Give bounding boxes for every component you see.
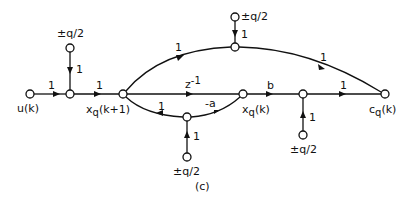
label-c: cq(k): [369, 103, 396, 118]
node-source-1: [66, 44, 74, 52]
arrow-icon: [186, 91, 193, 97]
gain-srctop: 1: [241, 28, 248, 41]
node-top: [231, 43, 239, 51]
label-xk: xq(k): [242, 103, 270, 118]
node-source-low: [183, 153, 191, 161]
gain-j1-xk1: 1: [96, 79, 103, 92]
node-u: [26, 90, 34, 98]
gain-xk1-top: 1: [175, 41, 182, 54]
node-junction-1: [66, 90, 74, 98]
arrow-icon: [67, 67, 73, 74]
arrow-icon: [184, 131, 190, 138]
edge-top-to-c: [239, 47, 381, 92]
edge-low-to-xk1: [126, 97, 183, 117]
label-source-top: ±q/2: [241, 10, 268, 23]
gain-top-c: 1: [320, 51, 327, 64]
gain-low-xk1: 1: [158, 100, 165, 113]
gain-u-j1: 1: [48, 79, 55, 92]
node-xk1: [119, 90, 127, 98]
node-low: [183, 113, 191, 121]
label-xk1: xq(k+1): [86, 103, 130, 118]
gain-srclow: 1: [193, 130, 200, 143]
node-junction-2: [299, 90, 307, 98]
gain-b: b: [267, 79, 274, 92]
node-xk: [239, 90, 247, 98]
label-u: u(k): [17, 102, 39, 115]
gain-z-inverse: z-1: [185, 75, 201, 91]
label-source-1: ±q/2: [57, 27, 84, 40]
signal-flow-graph: u(k) xq(k+1) xq(k) cq(k) ±q/2 ±q/2 ±q/2 …: [0, 0, 411, 204]
node-source-top: [231, 13, 239, 21]
label-source-right: ±q/2: [290, 143, 317, 156]
node-source-right: [299, 131, 307, 139]
arrow-icon: [300, 111, 306, 118]
gain-srcr: 1: [309, 111, 316, 124]
gain-j2-c: 1: [340, 79, 347, 92]
gain-src1: 1: [76, 63, 83, 76]
label-source-low: ±q/2: [173, 165, 200, 178]
arrow-icon: [232, 30, 238, 37]
gain-minus-a: -a: [205, 97, 216, 110]
arrow-icon: [176, 55, 184, 61]
arrow-icon: [318, 64, 325, 70]
node-c: [381, 90, 389, 98]
figure-caption: (c): [195, 180, 210, 193]
